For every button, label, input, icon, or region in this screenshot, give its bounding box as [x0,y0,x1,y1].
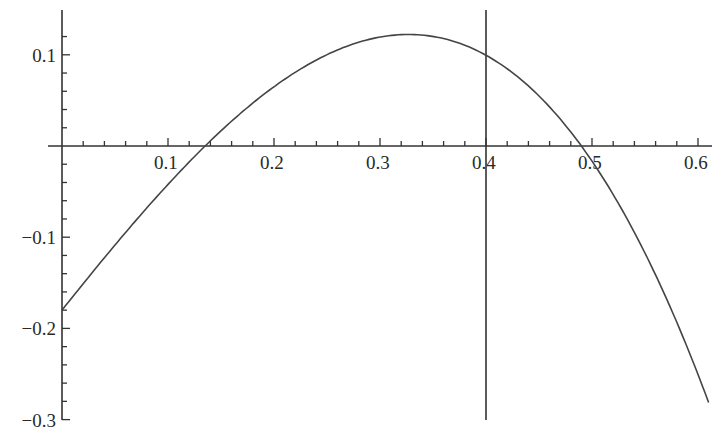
y-axis: 0.1−0.1−0.2−0.3 [22,10,70,431]
x-tick-label: 0.4 [472,152,496,173]
x-ticks [83,138,698,146]
x-tick-labels: 0.10.20.30.40.50.6 [154,152,708,173]
y-tick-label: −0.2 [22,318,56,339]
function-curve [62,35,709,403]
y-tick-label: −0.3 [22,410,56,431]
x-tick-label: 0.6 [684,152,708,173]
y-tick-label: 0.1 [32,45,56,66]
x-tick-label: 0.3 [366,152,390,173]
x-tick-label: 0.1 [154,152,178,173]
function-plot: 0.1−0.1−0.2−0.3 0.10.20.30.40.50.6 [0,0,717,433]
y-tick-label: −0.1 [22,227,56,248]
x-tick-label: 0.2 [260,152,284,173]
y-ticks [62,37,70,420]
x-axis: 0.10.20.30.40.50.6 [48,138,712,173]
y-tick-labels: 0.1−0.1−0.2−0.3 [22,45,56,431]
